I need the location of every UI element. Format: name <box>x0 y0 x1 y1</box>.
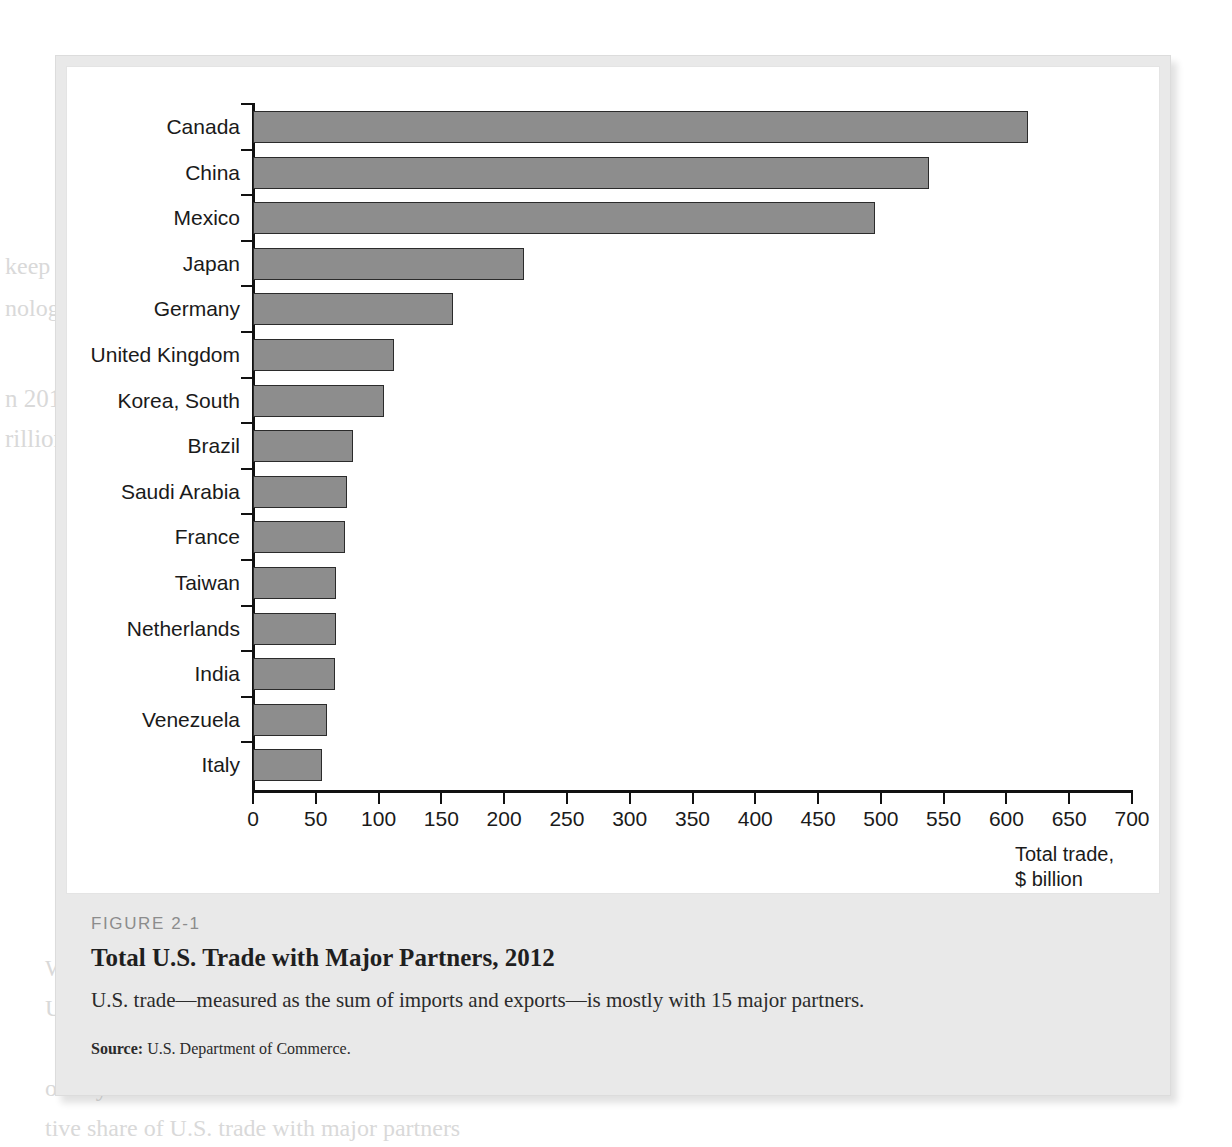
x-axis-tick <box>1131 793 1133 804</box>
x-axis-tick <box>1005 793 1007 804</box>
bar <box>253 704 327 736</box>
y-axis-tick <box>241 559 253 561</box>
bar-row: India <box>67 655 1161 693</box>
x-axis-tick-label: 250 <box>549 807 584 831</box>
y-axis-tick <box>241 149 253 151</box>
bar-row: United Kingdom <box>67 336 1161 374</box>
bar-row: Venezuela <box>67 701 1161 739</box>
category-label: Taiwan <box>175 564 240 602</box>
x-axis-tick-label: 700 <box>1114 807 1149 831</box>
category-label: India <box>194 655 240 693</box>
x-axis-tick-label: 300 <box>612 807 647 831</box>
x-axis-tick-label: 400 <box>738 807 773 831</box>
y-axis-tick <box>241 741 253 743</box>
x-axis-tick-label: 550 <box>926 807 961 831</box>
figure-container: CanadaChinaMexicoJapanGermanyUnited King… <box>55 55 1171 1096</box>
bar <box>253 111 1028 143</box>
y-axis-tick <box>241 605 253 607</box>
bar <box>253 430 353 462</box>
y-axis-tick <box>241 194 253 196</box>
x-axis-tick-label: 0 <box>247 807 259 831</box>
y-axis-tick <box>241 331 253 333</box>
x-axis-tick-label: 600 <box>989 807 1024 831</box>
bar-row: Canada <box>67 108 1161 146</box>
x-axis-tick-label: 150 <box>424 807 459 831</box>
category-label: Saudi Arabia <box>121 473 240 511</box>
bar <box>253 293 453 325</box>
x-axis-tick-label: 650 <box>1052 807 1087 831</box>
bar-row: Brazil <box>67 427 1161 465</box>
x-axis-tick-label: 350 <box>675 807 710 831</box>
category-label: Canada <box>166 108 240 146</box>
bar-row: Japan <box>67 245 1161 283</box>
bar-row: Italy <box>67 746 1161 784</box>
y-axis-tick <box>241 513 253 515</box>
x-axis-tick <box>315 793 317 804</box>
x-axis-tick-label: 100 <box>361 807 396 831</box>
category-label: Germany <box>154 290 240 328</box>
bar <box>253 521 345 553</box>
x-axis-tick <box>440 793 442 804</box>
figure-number: FIGURE 2-1 <box>91 914 201 934</box>
bar-row: Mexico <box>67 199 1161 237</box>
category-label: Netherlands <box>127 610 240 648</box>
bar <box>253 385 384 417</box>
bar <box>253 248 524 280</box>
category-label: Japan <box>183 245 240 283</box>
y-axis-tick <box>241 285 253 287</box>
y-axis-tick <box>241 240 253 242</box>
x-axis-tick <box>1068 793 1070 804</box>
bar <box>253 658 335 690</box>
x-axis-tick <box>754 793 756 804</box>
category-label: China <box>185 154 240 192</box>
category-label: Korea, South <box>117 382 240 420</box>
bar-row: Korea, South <box>67 382 1161 420</box>
bar <box>253 749 322 781</box>
bar-chart: CanadaChinaMexicoJapanGermanyUnited King… <box>67 67 1161 895</box>
bar <box>253 613 336 645</box>
source-text: U.S. Department of Commerce. <box>143 1040 351 1057</box>
figure-subtitle: U.S. trade—measured as the sum of import… <box>91 988 864 1013</box>
bar <box>253 157 929 189</box>
category-label: Mexico <box>173 199 240 237</box>
bar-row: Netherlands <box>67 610 1161 648</box>
bar-row: France <box>67 518 1161 556</box>
x-axis-tick <box>503 793 505 804</box>
chart-plate: CanadaChinaMexicoJapanGermanyUnited King… <box>66 66 1160 894</box>
figure-caption: FIGURE 2-1 Total U.S. Trade with Major P… <box>66 902 1160 1087</box>
x-axis-tick <box>943 793 945 804</box>
x-axis-tick <box>629 793 631 804</box>
x-axis-tick <box>817 793 819 804</box>
category-label: Italy <box>201 746 240 784</box>
y-axis-tick <box>241 422 253 424</box>
bar <box>253 567 336 599</box>
category-label: France <box>175 518 240 556</box>
bar <box>253 202 875 234</box>
figure-title: Total U.S. Trade with Major Partners, 20… <box>91 944 555 972</box>
y-axis-tick <box>241 468 253 470</box>
bar-row: China <box>67 154 1161 192</box>
category-label: United Kingdom <box>91 336 240 374</box>
x-axis-tick <box>252 793 254 804</box>
bar <box>253 339 394 371</box>
bar-row: Saudi Arabia <box>67 473 1161 511</box>
x-axis-tick <box>566 793 568 804</box>
x-axis-tick <box>692 793 694 804</box>
bar-row: Taiwan <box>67 564 1161 602</box>
y-axis-tick <box>241 103 253 105</box>
y-axis-tick <box>241 650 253 652</box>
figure-source: Source: U.S. Department of Commerce. <box>91 1040 351 1058</box>
x-axis-tick-label: 200 <box>487 807 522 831</box>
x-axis-title: Total trade, $ billion <box>1015 842 1114 892</box>
y-axis-tick <box>241 696 253 698</box>
category-label: Brazil <box>187 427 240 465</box>
category-label: Venezuela <box>142 701 240 739</box>
x-axis-tick-label: 500 <box>863 807 898 831</box>
source-label: Source: <box>91 1040 143 1057</box>
scanned-page: The top trading Consumers and firms thei… <box>0 0 1232 1147</box>
x-axis-tick <box>880 793 882 804</box>
bar <box>253 476 347 508</box>
bleed-text: tive share of U.S. trade with major part… <box>45 1115 460 1142</box>
y-axis-tick <box>241 377 253 379</box>
x-axis-tick <box>378 793 380 804</box>
